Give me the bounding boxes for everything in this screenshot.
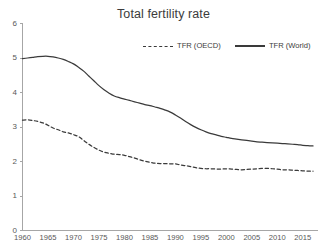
y-tick-label: 6	[13, 20, 17, 28]
series-line-tfr-oecd	[23, 120, 314, 171]
y-tick-label: 2	[13, 158, 17, 166]
y-tick-label-holder: 1	[2, 192, 17, 193]
y-tick-label: 5	[13, 54, 17, 62]
y-tick-label-holder: 5	[2, 54, 17, 55]
y-tick-label: 4	[13, 89, 17, 97]
y-tick-label-holder: 6	[2, 20, 17, 21]
plot-area	[0, 0, 327, 252]
y-tick-label-holder: 4	[2, 89, 17, 90]
y-tick-label: 1	[13, 192, 17, 200]
fertility-rate-chart: Total fertility rate TFR (OECD) TFR (Wor…	[0, 0, 327, 252]
x-tick-label-holder: 2015	[286, 234, 320, 242]
x-tick-label: 2015	[286, 234, 320, 242]
y-tick-label: 3	[13, 123, 17, 131]
y-tick-label-holder: 0	[2, 227, 17, 228]
y-tick-label-holder: 2	[2, 158, 17, 159]
y-tick-label-holder: 3	[2, 123, 17, 124]
